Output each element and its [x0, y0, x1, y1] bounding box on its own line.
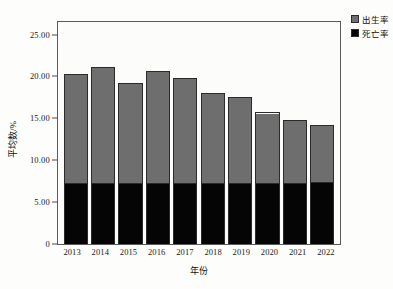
bar-segment-death-rate[interactable] — [147, 183, 169, 244]
bar-segment-birth-rate[interactable] — [229, 98, 251, 184]
y-axis-tick-label: 15.00 — [30, 113, 50, 123]
stacked-bar[interactable] — [173, 78, 197, 244]
stacked-bar[interactable] — [91, 67, 115, 244]
bar-slot — [281, 22, 308, 244]
bar-segment-death-rate[interactable] — [229, 183, 251, 244]
bar-slot — [172, 22, 199, 244]
stacked-bar[interactable] — [283, 120, 307, 244]
bar-segment-birth-rate[interactable] — [202, 94, 224, 183]
bar-segment-birth-rate[interactable] — [119, 84, 141, 183]
bar-segment-death-rate[interactable] — [256, 183, 278, 244]
stacked-bar[interactable] — [64, 74, 88, 244]
x-axis-tick-label: 2013 — [58, 247, 86, 261]
legend-item[interactable]: 死亡率 — [351, 27, 389, 39]
bar-slot — [226, 22, 253, 244]
bar-segment-death-rate[interactable] — [65, 183, 87, 244]
bar-segment-death-rate[interactable] — [119, 183, 141, 244]
bar-slot — [117, 22, 144, 244]
chart-canvas: 05.0010.0015.0020.0025.00 平均数/% 20132014… — [0, 0, 393, 289]
bar-segment-death-rate[interactable] — [284, 183, 306, 244]
legend-item-label: 死亡率 — [362, 27, 389, 39]
y-axis-tick-label: 5.00 — [34, 197, 50, 207]
x-axis-tick-labels: 2013201420152016201720182019202020212022 — [58, 247, 340, 261]
x-axis-title: 年份 — [58, 264, 340, 277]
black-swatch-icon — [351, 29, 359, 37]
bar-group — [58, 22, 340, 244]
x-axis-tick-label: 2020 — [255, 247, 283, 261]
bar-slot — [62, 22, 89, 244]
y-axis-tick-label: 10.00 — [30, 155, 50, 165]
x-axis-tick-label: 2016 — [143, 247, 171, 261]
bar-segment-birth-rate[interactable] — [174, 79, 196, 183]
plot-area — [58, 22, 340, 244]
bar-segment-birth-rate[interactable] — [311, 126, 333, 182]
stacked-bar[interactable] — [228, 97, 252, 244]
stacked-bar[interactable] — [146, 71, 170, 244]
x-axis-tick-label: 2021 — [284, 247, 312, 261]
bar-segment-death-rate[interactable] — [202, 183, 224, 244]
gray-swatch-icon — [351, 15, 359, 23]
bar-slot — [199, 22, 226, 244]
bar-segment-birth-rate[interactable] — [284, 121, 306, 183]
bar-segment-birth-rate[interactable] — [147, 72, 169, 183]
bar-segment-death-rate[interactable] — [174, 183, 196, 244]
x-axis-tick-label: 2019 — [227, 247, 255, 261]
bar-segment-birth-rate[interactable] — [92, 68, 114, 183]
bar-slot — [254, 22, 281, 244]
x-axis-tick-label: 2022 — [312, 247, 340, 261]
chart-legend: 出生率死亡率 — [351, 13, 389, 39]
y-axis-tick-label: 25.00 — [30, 30, 50, 40]
stacked-bar[interactable] — [118, 83, 142, 244]
stacked-bar[interactable] — [255, 112, 279, 244]
y-axis-title: 平均数/% — [6, 97, 19, 183]
y-axis-tick-label: 0 — [46, 239, 50, 249]
bar-segment-death-rate[interactable] — [92, 183, 114, 244]
stacked-bar[interactable] — [201, 93, 225, 244]
y-axis-tick-label: 20.00 — [30, 71, 50, 81]
stacked-bar[interactable] — [310, 125, 334, 244]
x-axis-tick-label: 2015 — [114, 247, 142, 261]
bar-segment-birth-rate[interactable] — [65, 75, 87, 183]
bar-slot — [144, 22, 171, 244]
legend-item-label: 出生率 — [362, 13, 389, 25]
bar-slot — [309, 22, 336, 244]
legend-item[interactable]: 出生率 — [351, 13, 389, 25]
x-axis-tick-label: 2014 — [86, 247, 114, 261]
x-axis-tick-label: 2018 — [199, 247, 227, 261]
x-axis-tick-label: 2017 — [171, 247, 199, 261]
bar-segment-birth-rate[interactable] — [256, 114, 278, 184]
bar-slot — [89, 22, 116, 244]
bar-segment-death-rate[interactable] — [311, 182, 333, 244]
